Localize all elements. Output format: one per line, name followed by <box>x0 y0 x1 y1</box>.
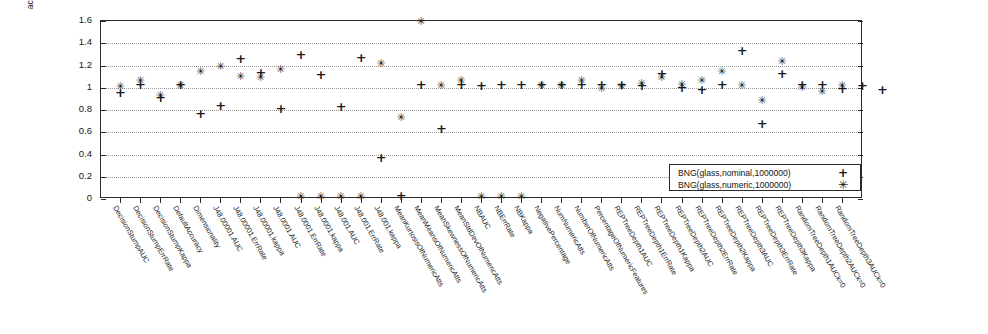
plus-marker-icon: + <box>376 152 386 164</box>
chart-legend: BNG(glass,nominal,1000000)+BNG(glass,num… <box>669 164 861 191</box>
asterisk-marker-icon: ✳ <box>476 191 486 203</box>
plus-marker-icon: + <box>416 79 426 91</box>
x-tick-label: NegativePercentage <box>532 204 573 266</box>
data-point: ✳ <box>160 97 161 98</box>
data-point: ✳ <box>220 68 221 69</box>
data-point: ✳ <box>782 63 783 64</box>
x-tick-label: DecisionStumpErrRate <box>131 204 176 273</box>
plus-marker-icon: + <box>436 123 446 135</box>
x-tick-mark <box>120 198 121 203</box>
plus-marker-icon: + <box>195 108 205 120</box>
y-tick-mark <box>858 110 863 111</box>
x-tick-label: REPTreeDepth2ErrRate <box>693 204 740 276</box>
x-tick-mark <box>822 198 823 203</box>
x-tick-label: RandomTreeDepth1AUCk=0 <box>793 204 847 289</box>
x-tick-label: J48.00001.kappa <box>252 204 288 257</box>
y-tick-mark <box>101 88 106 89</box>
data-point: ✳ <box>120 88 121 89</box>
x-tick-mark <box>441 198 442 203</box>
y-tick-mark <box>858 132 863 133</box>
asterisk-marker-icon: ✳ <box>336 191 346 203</box>
data-point: + <box>762 126 763 127</box>
x-tick-mark <box>461 198 462 203</box>
data-point: + <box>702 92 703 93</box>
y-tick-label: 0.2 <box>66 171 92 181</box>
x-tick-label: MeanSkewnessOfNumericAtts <box>432 204 489 294</box>
asterisk-marker-icon: ✳ <box>516 191 526 203</box>
data-point: + <box>421 87 422 88</box>
y-tick-mark <box>101 177 106 178</box>
data-point: ✳ <box>481 198 482 199</box>
data-point: ✳ <box>321 198 322 199</box>
asterisk-marker-icon: ✳ <box>636 78 646 90</box>
x-tick-mark <box>240 198 241 203</box>
asterisk-marker-icon: ✳ <box>195 66 205 78</box>
x-tick-label: DefaultAccuracy <box>171 204 205 254</box>
data-point: ✳ <box>702 82 703 83</box>
data-point: + <box>240 61 241 62</box>
data-point: + <box>481 88 482 89</box>
asterisk-marker-icon: ✳ <box>235 71 245 83</box>
x-tick-label: Dimensionality <box>191 204 222 250</box>
asterisk-marker-icon: ✳ <box>215 61 225 73</box>
data-point: ✳ <box>802 89 803 90</box>
data-point: ✳ <box>401 119 402 120</box>
x-tick-label: MeanKurtosisOfNumericAtts <box>392 204 446 288</box>
plus-marker-icon: + <box>757 118 767 130</box>
plus-marker-icon: + <box>777 68 787 80</box>
data-point: + <box>220 108 221 109</box>
y-tick-mark <box>101 132 106 133</box>
y-tick-label: 1.4 <box>66 37 92 47</box>
asterisk-marker-icon: ✳ <box>255 72 265 84</box>
data-point: ✳ <box>140 82 141 83</box>
data-point: ✳ <box>842 87 843 88</box>
y-tick-mark <box>101 21 106 22</box>
x-tick-label: REPTreeDepth1AUC <box>613 204 655 268</box>
y-tick-mark <box>101 110 106 111</box>
x-tick-label: NumNumericAtts <box>552 204 587 256</box>
data-point: + <box>501 87 502 88</box>
asterisk-marker-icon: ✳ <box>496 191 506 203</box>
x-tick-mark <box>280 198 281 203</box>
data-point: ✳ <box>561 87 562 88</box>
asterisk-marker-icon: ✳ <box>817 86 827 98</box>
data-point: ✳ <box>441 87 442 88</box>
asterisk-marker-icon: ✳ <box>677 79 687 91</box>
x-tick-label: MeanStdDevOfNumericAtts <box>452 204 505 286</box>
data-point: + <box>120 95 121 96</box>
legend-label: BNG(glass,nominal,1000000) <box>678 167 791 179</box>
scatter-plot-figure: accuracy(k-NN)-accuracy(LB-kNN) 00.20.40… <box>0 0 988 334</box>
x-tick-mark <box>762 198 763 203</box>
x-tick-mark <box>661 198 662 203</box>
x-tick-mark <box>421 198 422 203</box>
x-tick-mark <box>702 198 703 203</box>
x-tick-label: NBKappa <box>512 204 535 236</box>
x-tick-label: J48.00001.AUC <box>212 204 246 253</box>
plus-marker-icon: + <box>737 45 747 57</box>
asterisk-marker-icon: ✳ <box>135 75 145 87</box>
data-point: + <box>341 109 342 110</box>
legend-entry: BNG(glass,numeric,1000000)✳ <box>670 179 862 191</box>
data-point: ✳ <box>280 71 281 72</box>
y-axis-label-container: accuracy(k-NN)-accuracy(LB-kNN) <box>0 0 40 210</box>
data-point: ✳ <box>601 90 602 91</box>
x-tick-mark <box>802 198 803 203</box>
x-tick-label: DecisionStumpKappa <box>151 204 194 269</box>
gridline <box>101 155 861 156</box>
x-tick-mark <box>260 198 261 203</box>
x-tick-mark <box>601 198 602 203</box>
data-point: + <box>862 88 863 89</box>
data-point: ✳ <box>661 79 662 80</box>
plus-marker-icon: + <box>476 80 486 92</box>
plus-marker-icon: + <box>235 53 245 65</box>
data-point: ✳ <box>421 23 422 24</box>
x-tick-mark <box>641 198 642 203</box>
asterisk-marker-icon: ✳ <box>316 191 326 203</box>
x-tick-label: J48.0001.ErrRate <box>292 204 328 258</box>
data-point: ✳ <box>762 102 763 103</box>
x-tick-mark <box>140 198 141 203</box>
asterisk-marker-icon: ✳ <box>797 82 807 94</box>
plus-marker-icon: + <box>496 79 506 91</box>
x-tick-mark <box>160 198 161 203</box>
x-tick-mark <box>742 198 743 203</box>
